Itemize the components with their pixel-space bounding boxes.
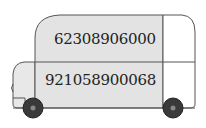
top-number: 62308906000	[54, 30, 156, 48]
bus-drawing	[0, 0, 206, 128]
wheel-rear-icon	[163, 98, 183, 118]
bottom-number: 921058900068	[45, 71, 156, 89]
wheel-front-icon	[23, 98, 43, 118]
bus-figure: 62308906000 921058900068	[0, 0, 206, 128]
